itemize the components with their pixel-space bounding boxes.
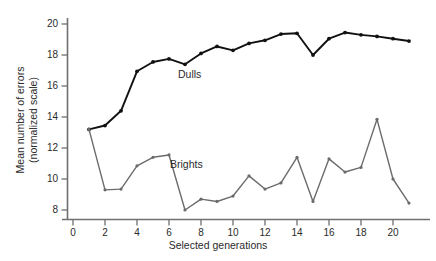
data-point [263,38,267,42]
data-point [151,60,155,64]
y-axis-tick-label: 20 [26,18,58,29]
data-point [327,37,331,41]
data-point [199,52,203,56]
data-point [167,153,170,156]
x-axis-tick-label: 16 [314,227,344,238]
x-axis-tick-label: 6 [154,227,184,238]
x-axis-tick-label: 12 [250,227,280,238]
x-axis-title: Selected generations [0,239,436,251]
data-point [215,200,218,203]
y-axis-title-line2: (normalized scale) [27,77,39,163]
data-point [279,32,283,36]
series-layer [87,31,411,212]
data-point [375,35,379,39]
data-point [135,164,138,167]
data-point [359,166,362,169]
data-point [311,200,314,203]
series-label-brights: Brights [170,158,203,170]
series-line-dulls [89,33,409,130]
x-axis-tick-label: 20 [378,227,408,238]
data-point [231,194,234,197]
data-point [391,37,395,41]
data-point [343,31,347,35]
y-axis-ticks [62,24,68,210]
x-axis-tick-label: 14 [282,227,312,238]
chart-plot-area [0,0,436,261]
data-point [119,109,123,113]
x-axis-tick-label: 18 [346,227,376,238]
data-point [247,174,250,177]
series-brights [87,118,410,212]
data-point [183,62,187,66]
data-point [375,118,378,121]
data-point [119,187,122,190]
data-point [391,177,394,180]
data-point [87,128,90,131]
data-point [407,201,410,204]
data-point [231,48,235,52]
data-point [135,69,139,73]
y-axis-title: Mean number of errors (normalized scale) [14,30,40,210]
data-point [279,181,282,184]
data-point [295,31,299,35]
x-axis-tick-label: 0 [58,227,88,238]
data-point [327,157,330,160]
x-axis-tick-label: 2 [90,227,120,238]
data-point [103,188,106,191]
data-point [183,208,186,211]
data-point [263,187,266,190]
series-label-dulls: Dulls [178,68,201,80]
x-axis-tick-label: 8 [186,227,216,238]
data-point [295,156,298,159]
data-point [151,156,154,159]
y-axis-title-line1: Mean number of errors [14,67,26,174]
x-axis-tick-label: 10 [218,227,248,238]
series-dulls [87,31,411,132]
data-point [359,33,363,37]
data-point [311,53,315,57]
data-point [407,39,411,43]
x-axis-tick-label: 4 [122,227,152,238]
data-point [167,57,171,61]
chart-container: 8101214161820 02468101214161820 Mean num… [0,0,436,261]
data-point [103,124,107,128]
data-point [247,41,251,45]
data-point [199,198,202,201]
x-axis-ticks [73,220,393,226]
data-point [215,45,219,49]
data-point [343,170,346,173]
